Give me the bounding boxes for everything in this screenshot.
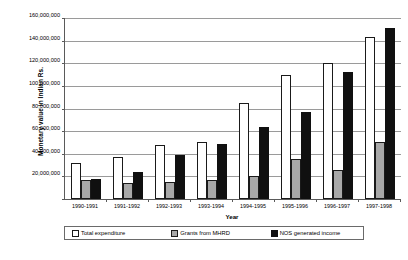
y-axis-tick-label: 20,000,000 bbox=[14, 170, 60, 176]
bar-group bbox=[359, 18, 401, 199]
y-axis-tick-mark bbox=[62, 199, 65, 200]
legend-swatch-black bbox=[271, 230, 278, 237]
x-axis-tick-label: 1990-1991 bbox=[64, 203, 106, 209]
y-axis-tick-label: 40,000,000 bbox=[14, 148, 60, 154]
bar-group bbox=[149, 18, 191, 199]
x-axis-tick-mark bbox=[400, 199, 401, 202]
legend-swatch-gray bbox=[171, 230, 178, 237]
y-axis-tick-label: 160,000,000 bbox=[14, 12, 60, 18]
bar-nos[interactable] bbox=[301, 112, 311, 199]
bar-nos[interactable] bbox=[259, 127, 269, 199]
bar-group bbox=[233, 18, 275, 199]
legend-item-label: Total expenditure bbox=[81, 230, 125, 236]
x-axis-tick-label: 1995-1996 bbox=[274, 203, 316, 209]
bar-total[interactable] bbox=[113, 157, 123, 199]
bar-grants[interactable] bbox=[291, 159, 301, 199]
bar-total[interactable] bbox=[365, 37, 375, 199]
x-axis-tick-label: 1994-1995 bbox=[232, 203, 274, 209]
bar-nos[interactable] bbox=[385, 28, 395, 199]
bar-grants[interactable] bbox=[81, 180, 91, 199]
plot-area bbox=[64, 18, 401, 200]
x-axis-tick-mark bbox=[316, 199, 317, 202]
bar-total[interactable] bbox=[155, 145, 165, 199]
bar-total[interactable] bbox=[71, 163, 81, 199]
bar-total[interactable] bbox=[323, 63, 333, 199]
bar-grants[interactable] bbox=[165, 182, 175, 199]
bar-group bbox=[65, 18, 107, 199]
x-axis-tick-label: 1993-1994 bbox=[190, 203, 232, 209]
bar-groups bbox=[65, 18, 401, 199]
x-axis-tick-label: 1997-1998 bbox=[358, 203, 400, 209]
bar-total[interactable] bbox=[239, 103, 249, 199]
bar-grants[interactable] bbox=[207, 180, 217, 199]
x-axis-tick-mark bbox=[190, 199, 191, 202]
bar-nos[interactable] bbox=[217, 144, 227, 199]
y-axis-tick-label: 120,000,000 bbox=[14, 57, 60, 63]
legend-item[interactable]: Grants from MHRD bbox=[164, 230, 263, 237]
x-axis-tick-mark bbox=[148, 199, 149, 202]
x-axis-tick-mark bbox=[274, 199, 275, 202]
bar-nos[interactable] bbox=[133, 172, 143, 199]
bar-group bbox=[191, 18, 233, 199]
x-axis-tick-label: 1991-1992 bbox=[106, 203, 148, 209]
bar-total[interactable] bbox=[281, 75, 291, 199]
x-axis-title: Year bbox=[64, 213, 400, 220]
x-axis-tick-mark bbox=[358, 199, 359, 202]
legend-item[interactable]: NOS generated income bbox=[264, 230, 363, 237]
bar-nos[interactable] bbox=[343, 72, 353, 199]
x-axis-tick-label: 1992-1993 bbox=[148, 203, 190, 209]
legend-item-label: NOS generated income bbox=[280, 230, 341, 236]
y-axis-tick-label: 80,000,000 bbox=[14, 103, 60, 109]
bar-group bbox=[317, 18, 359, 199]
y-axis-tick-label: 100,000,000 bbox=[14, 80, 60, 86]
legend-item-label: Grants from MHRD bbox=[180, 230, 230, 236]
chart-legend: Total expenditureGrants from MHRDNOS gen… bbox=[64, 226, 364, 240]
bar-grants[interactable] bbox=[249, 176, 259, 199]
bar-nos[interactable] bbox=[175, 155, 185, 199]
x-axis-tick-mark bbox=[232, 199, 233, 202]
x-axis-tick-mark bbox=[106, 199, 107, 202]
y-axis-tick-label: 140,000,000 bbox=[14, 35, 60, 41]
bar-chart: Monetary value in Indian Rs. 20,000,0004… bbox=[0, 0, 408, 260]
bar-group bbox=[107, 18, 149, 199]
bar-grants[interactable] bbox=[375, 142, 385, 199]
x-axis-tick-labels: 1990-19911991-19921992-19931993-19941994… bbox=[64, 203, 400, 209]
bar-grants[interactable] bbox=[333, 170, 343, 199]
y-axis-tick-label: 60,000,000 bbox=[14, 125, 60, 131]
bar-group bbox=[275, 18, 317, 199]
bar-total[interactable] bbox=[197, 142, 207, 199]
x-axis-tick-label: 1996-1997 bbox=[316, 203, 358, 209]
legend-swatch-white bbox=[72, 230, 79, 237]
legend-item[interactable]: Total expenditure bbox=[65, 230, 164, 237]
bar-nos[interactable] bbox=[91, 179, 101, 199]
bar-grants[interactable] bbox=[123, 183, 133, 199]
y-axis-tick-labels: 20,000,00040,000,00060,000,00080,000,000… bbox=[14, 15, 60, 199]
